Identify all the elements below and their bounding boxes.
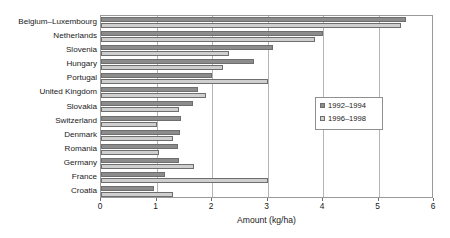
bar — [101, 122, 157, 127]
bar-group — [101, 30, 432, 44]
bar — [101, 37, 315, 42]
bar — [101, 23, 401, 28]
legend-swatch-icon — [320, 116, 325, 121]
category-label: Slovenia — [66, 46, 97, 54]
x-tick-label: 2 — [209, 202, 214, 210]
category-label: Croatia — [71, 187, 97, 195]
bar — [101, 51, 229, 56]
bar — [101, 144, 178, 149]
legend-label: 1992–1994 — [328, 102, 366, 110]
bar — [101, 164, 194, 169]
bar-group — [101, 143, 432, 157]
bar — [101, 107, 179, 112]
x-axis-title: Amount (kg/ha) — [100, 215, 433, 225]
bar — [101, 65, 223, 70]
bar — [101, 31, 323, 36]
bar — [101, 136, 173, 141]
category-label: Belgium–Luxembourg — [18, 18, 97, 26]
bar — [101, 178, 268, 183]
category-label: Switzerland — [55, 117, 97, 125]
bar-group — [101, 185, 432, 199]
category-label: Germany — [64, 159, 97, 167]
legend-swatch-icon — [320, 103, 325, 108]
bar-chart-figure: Belgium–LuxembourgNetherlandsSloveniaHun… — [0, 0, 450, 238]
category-label: Netherlands — [53, 32, 97, 40]
category-label: Slovakia — [66, 103, 97, 111]
x-tick-label: 5 — [375, 202, 380, 210]
bar — [101, 59, 254, 64]
category-label: Denmark — [64, 131, 97, 139]
category-label: France — [72, 173, 97, 181]
x-tick-label: 6 — [431, 202, 436, 210]
bar — [101, 17, 406, 22]
bar-group — [101, 44, 432, 58]
bar-group — [101, 157, 432, 171]
category-label: Romania — [65, 145, 97, 153]
x-tick-label: 4 — [320, 202, 325, 210]
bar — [101, 192, 173, 197]
bar — [101, 116, 181, 121]
category-axis-labels: Belgium–LuxembourgNetherlandsSloveniaHun… — [0, 15, 97, 198]
bar-group — [101, 58, 432, 72]
category-label: United Kingdom — [39, 88, 97, 96]
category-label: Portugal — [67, 74, 97, 82]
bar — [101, 186, 154, 191]
x-tick-label: 0 — [98, 202, 103, 210]
legend: 1992–1994 1996–1998 — [315, 97, 383, 130]
bar-group — [101, 72, 432, 86]
bar — [101, 45, 273, 50]
bar — [101, 93, 206, 98]
legend-entry: 1992–1994 — [320, 102, 382, 110]
bar — [101, 150, 159, 155]
bar — [101, 158, 179, 163]
bar — [101, 79, 268, 84]
bar — [101, 172, 165, 177]
bar-group — [101, 129, 432, 143]
x-axis-ticks: 0123456 — [100, 198, 433, 212]
bar — [101, 101, 193, 106]
x-tick-label: 1 — [153, 202, 158, 210]
bar-group — [101, 16, 432, 30]
legend-entry: 1996–1998 — [320, 115, 382, 123]
category-label: Hungary — [66, 60, 97, 68]
bar-group — [101, 171, 432, 185]
x-tick-label: 3 — [264, 202, 269, 210]
bar — [101, 73, 212, 78]
legend-label: 1996–1998 — [328, 115, 366, 123]
bar — [101, 87, 198, 92]
bar — [101, 130, 180, 135]
plot-area — [100, 15, 433, 198]
